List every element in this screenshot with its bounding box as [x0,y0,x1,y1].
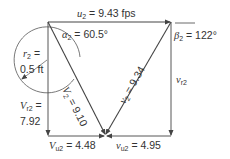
vu2-label: vu2 = 4.95 [116,140,161,152]
alpha2-label: α2 = 60.5° [62,29,108,41]
beta2-label: β2 = 122° [174,30,217,42]
u2-label: u2 = 9.43 fps [77,8,136,20]
Vu2-label: Vu2 = 4.48 [49,140,96,152]
vr2-label: vr2 [176,74,187,86]
r2-label: r2 = 0.5 ft [23,47,43,75]
Vr2-label: Vr2 = 7.92 [20,99,42,127]
velocity-triangle-diagram [0,0,230,159]
